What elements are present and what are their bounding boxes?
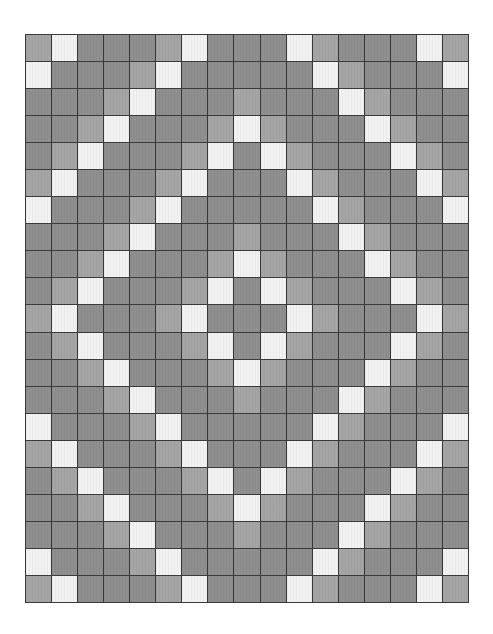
tile-medium-gray: [156, 495, 181, 521]
tile-medium-gray: [52, 62, 77, 88]
tile-light-gray: [313, 441, 338, 467]
tile-medium-gray: [156, 333, 181, 359]
tile-white: [104, 495, 129, 521]
tile-medium-gray: [208, 224, 233, 250]
tile-medium-gray: [417, 116, 442, 142]
tile-medium-gray: [391, 576, 416, 602]
tile-light-gray: [365, 89, 390, 115]
tile-medium-gray: [130, 278, 155, 304]
tile-white: [26, 414, 51, 440]
tile-light-gray: [339, 549, 364, 575]
tile-medium-gray: [417, 224, 442, 250]
tile-medium-gray: [339, 495, 364, 521]
tile-medium-gray: [339, 116, 364, 142]
tile-medium-gray: [52, 414, 77, 440]
tile-white: [78, 468, 103, 494]
tile-medium-gray: [104, 468, 129, 494]
tile-light-gray: [313, 305, 338, 331]
tile-medium-gray: [130, 116, 155, 142]
tile-white: [104, 251, 129, 277]
tile-light-gray: [391, 116, 416, 142]
tile-medium-gray: [443, 251, 468, 277]
tile-medium-gray: [234, 62, 259, 88]
tile-medium-gray: [391, 414, 416, 440]
tile-medium-gray: [78, 35, 103, 61]
tile-medium-gray: [234, 441, 259, 467]
tile-light-gray: [182, 468, 207, 494]
tile-medium-gray: [391, 549, 416, 575]
tile-medium-gray: [182, 116, 207, 142]
tile-medium-gray: [313, 387, 338, 413]
tile-medium-gray: [443, 89, 468, 115]
tile-medium-gray: [443, 333, 468, 359]
tile-medium-gray: [339, 35, 364, 61]
tile-medium-gray: [208, 197, 233, 223]
tile-medium-gray: [182, 251, 207, 277]
tile-light-gray: [391, 360, 416, 386]
tile-light-gray: [104, 522, 129, 548]
tile-medium-gray: [339, 576, 364, 602]
tile-medium-gray: [78, 305, 103, 331]
tile-medium-gray: [339, 360, 364, 386]
tile-light-gray: [365, 387, 390, 413]
tile-light-gray: [78, 360, 103, 386]
tile-medium-gray: [391, 89, 416, 115]
tile-medium-gray: [365, 468, 390, 494]
tile-medium-gray: [78, 441, 103, 467]
tile-medium-gray: [339, 333, 364, 359]
tile-light-gray: [130, 62, 155, 88]
tile-medium-gray: [52, 387, 77, 413]
tile-white: [261, 278, 286, 304]
tile-light-gray: [208, 495, 233, 521]
tile-medium-gray: [443, 495, 468, 521]
tile-medium-gray: [156, 468, 181, 494]
tile-white: [234, 495, 259, 521]
tile-white: [182, 441, 207, 467]
tile-medium-gray: [313, 360, 338, 386]
tile-light-gray: [208, 251, 233, 277]
tile-medium-gray: [261, 62, 286, 88]
tile-medium-gray: [234, 305, 259, 331]
tile-medium-gray: [156, 251, 181, 277]
tile-light-gray: [182, 143, 207, 169]
tile-medium-gray: [365, 576, 390, 602]
tile-white: [417, 170, 442, 196]
tile-medium-gray: [78, 387, 103, 413]
tile-medium-gray: [78, 522, 103, 548]
tile-white: [313, 62, 338, 88]
tile-medium-gray: [104, 414, 129, 440]
tile-medium-gray: [182, 62, 207, 88]
tile-medium-gray: [78, 576, 103, 602]
tile-white: [104, 116, 129, 142]
tile-white: [443, 414, 468, 440]
tile-light-gray: [287, 278, 312, 304]
tile-medium-gray: [26, 333, 51, 359]
tile-medium-gray: [365, 278, 390, 304]
tile-white: [391, 278, 416, 304]
tile-white: [182, 35, 207, 61]
tile-white: [339, 522, 364, 548]
tile-medium-gray: [156, 522, 181, 548]
tile-medium-gray: [287, 251, 312, 277]
tile-medium-gray: [26, 116, 51, 142]
tile-medium-gray: [234, 414, 259, 440]
tile-medium-gray: [104, 278, 129, 304]
tile-medium-gray: [313, 333, 338, 359]
tile-light-gray: [443, 35, 468, 61]
tile-medium-gray: [208, 387, 233, 413]
tile-medium-gray: [365, 62, 390, 88]
tile-medium-gray: [261, 170, 286, 196]
tile-light-gray: [156, 305, 181, 331]
tile-white: [443, 197, 468, 223]
tile-medium-gray: [261, 441, 286, 467]
tile-medium-gray: [417, 549, 442, 575]
tile-medium-gray: [130, 468, 155, 494]
tile-medium-gray: [339, 441, 364, 467]
tile-medium-gray: [287, 224, 312, 250]
tile-medium-gray: [417, 62, 442, 88]
tile-medium-gray: [104, 441, 129, 467]
tile-medium-gray: [365, 333, 390, 359]
tile-medium-gray: [287, 62, 312, 88]
tile-white: [26, 62, 51, 88]
tile-medium-gray: [52, 224, 77, 250]
